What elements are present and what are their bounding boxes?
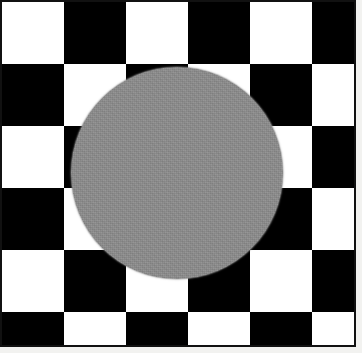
center-gray-disc: [71, 67, 283, 279]
image-border: [0, 0, 356, 347]
image-canvas: Black and white diamond checkerboard wit…: [0, 0, 362, 353]
